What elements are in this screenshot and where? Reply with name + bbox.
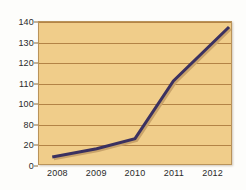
y-axis-tick-label: 80 [24,120,34,130]
x-axis-tick-label: 2009 [86,168,107,178]
y-axis: 14013012011010080200 [0,21,34,165]
series-line-shadow [54,29,231,159]
y-axis-tick-label: 100 [18,99,34,109]
x-axis-tick-label: 2008 [47,168,68,178]
x-axis-tick-label: 2011 [164,168,184,178]
x-axis-tick-label: 2010 [125,168,146,178]
y-axis-tick-label: 110 [19,79,34,89]
line-chart: 14013012011010080200 2008200920102011201… [0,0,246,190]
y-axis-tick-label: 120 [18,58,34,68]
y-axis-tick-label: 20 [24,140,34,150]
x-axis-tick-label: 2012 [202,168,223,178]
series-line-group [39,22,231,164]
plot-area [38,21,232,165]
y-axis-tick-label: 130 [18,38,34,48]
y-axis-tick-mark [34,166,38,167]
y-axis-tick-label: 140 [18,17,34,27]
x-axis: 20082009201020112012 [38,168,232,186]
series-line [52,27,229,157]
